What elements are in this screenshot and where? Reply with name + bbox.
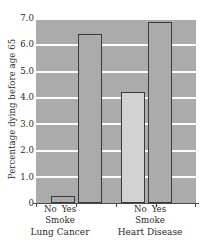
group-name: Lung Cancer <box>20 227 100 237</box>
gridline <box>36 71 196 73</box>
group-levels: NoYes <box>20 204 100 214</box>
y-tick-label: 4.0 <box>20 92 34 102</box>
y-tick-label: 1.0 <box>20 172 34 182</box>
group-levels: NoYes <box>105 204 195 214</box>
y-tick-label: 7.0 <box>20 13 34 23</box>
level-label: Yes <box>62 204 76 214</box>
y-tick-label: 6.0 <box>20 39 34 49</box>
group-heart-disease: NoYes Smoke Heart Disease <box>105 204 195 237</box>
gridline <box>36 97 196 99</box>
bar-lung-cancer-yes <box>78 34 102 203</box>
y-tick-label: 2.0 <box>20 145 34 155</box>
y-tick-label: 3.0 <box>20 119 34 129</box>
group-name: Heart Disease <box>105 227 195 237</box>
level-label: No <box>134 204 147 214</box>
x-axis-labels: NoYes Smoke Lung Cancer NoYes Smoke Hear… <box>0 204 207 251</box>
gridline <box>36 18 196 20</box>
factor-label: Smoke <box>105 215 195 225</box>
group-lung-cancer: NoYes Smoke Lung Cancer <box>20 204 100 237</box>
factor-label: Smoke <box>20 215 100 225</box>
gridline <box>36 123 196 125</box>
gridline <box>36 150 196 152</box>
level-label: Yes <box>152 204 166 214</box>
plot-area <box>36 18 196 203</box>
level-label: No <box>44 204 57 214</box>
bar-heart-disease-yes <box>148 22 172 203</box>
y-tick-label: 5.0 <box>20 66 34 76</box>
bar-heart-disease-no <box>121 92 145 203</box>
bar-lung-cancer-no <box>51 196 75 203</box>
bar-chart-figure: Percentage dying before age 65 7.0 6.0 5… <box>0 0 207 251</box>
gridline <box>36 44 196 46</box>
gridline <box>36 176 196 178</box>
y-axis-tick-labels: 7.0 6.0 5.0 4.0 3.0 2.0 1.0 0 <box>12 18 34 203</box>
